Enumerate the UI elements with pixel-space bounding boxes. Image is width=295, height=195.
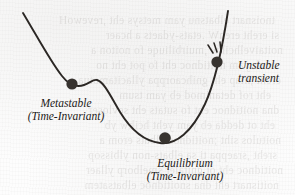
energy-landscape-figure: tnoisnart elbatsnu yam metsys eht ,revew… — [0, 0, 295, 195]
label-metastable: Metastable (Time-Invariant) — [18, 97, 114, 123]
unstable-ball — [211, 56, 222, 67]
motion-line-1 — [208, 45, 213, 53]
motion-lines-group — [208, 42, 221, 53]
label-unstable-transient: Unstable transient — [238, 59, 294, 85]
label-equilibrium-line2: (Time-Invariant) — [133, 170, 237, 183]
label-unstable-line2: transient — [238, 72, 294, 85]
label-unstable-line1: Unstable — [238, 59, 294, 72]
label-metastable-line1: Metastable — [18, 97, 114, 110]
label-metastable-line2: (Time-Invariant) — [18, 110, 114, 123]
motion-line-2 — [214, 43, 217, 52]
equilibrium-ball — [159, 132, 171, 144]
label-equilibrium-line1: Equilibrium — [133, 157, 237, 170]
metastable-ball — [66, 78, 77, 89]
label-equilibrium: Equilibrium (Time-Invariant) — [133, 157, 237, 183]
motion-line-3 — [220, 42, 221, 52]
